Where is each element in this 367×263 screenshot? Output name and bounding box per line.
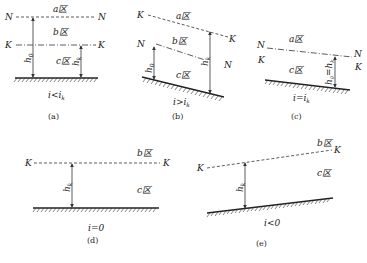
zone-label: b区: [53, 27, 70, 37]
line-label: K: [136, 10, 145, 20]
zone-label: c区: [137, 185, 153, 195]
zone-label: b区: [172, 36, 189, 46]
depth-label: h0=hk: [324, 60, 335, 85]
zone-label: b区: [317, 138, 334, 148]
line-label: N: [223, 60, 233, 70]
line-label: N: [4, 12, 14, 22]
panel-caption: (d): [87, 236, 98, 245]
zone-label: c区: [289, 65, 305, 75]
normal-depth-line: [156, 44, 205, 60]
channel-bed: [207, 198, 333, 217]
line-label: N: [136, 39, 146, 49]
line-label: N: [353, 49, 363, 59]
zone-label: a区: [176, 11, 192, 21]
zone-label: a区: [289, 34, 305, 44]
hk-label: hk: [235, 182, 246, 192]
h0-label: h0: [144, 63, 155, 73]
line-label: K: [354, 62, 363, 72]
hk-label: hk: [200, 56, 211, 66]
line-label: K: [228, 34, 237, 44]
line-label: N: [256, 40, 266, 50]
zone-label: b区: [137, 148, 154, 158]
channel-bed: [14, 78, 98, 82]
zone-label: c区: [56, 56, 72, 66]
panel-e: K K b区 c区 hk i<0 (e): [196, 138, 342, 248]
channel-bed: [265, 80, 350, 94]
panel-b: K K N N a区 b区 c区 h0 hk i>ik (b): [136, 10, 237, 121]
line-label: K: [24, 158, 33, 168]
slope-condition: i<ik: [48, 90, 65, 101]
line-label: N: [97, 12, 107, 22]
panel-caption: (c): [291, 112, 302, 121]
line-label: K: [333, 145, 342, 155]
hk-label: hk: [62, 182, 73, 192]
zone-label: c区: [176, 70, 192, 80]
panel-caption: (e): [256, 239, 267, 248]
zone-label: c区: [317, 168, 333, 178]
zone-label: a区: [53, 4, 69, 14]
panel-d: K K b区 c区 hk i=0 (d): [24, 148, 171, 245]
panel-caption: (a): [48, 112, 59, 121]
line-label: K: [162, 158, 171, 168]
line-label: K: [97, 40, 106, 50]
slope-condition: i<0: [264, 218, 280, 228]
critical-depth-line: [207, 150, 332, 168]
slope-condition: i=ik: [293, 93, 310, 104]
line-label: K: [257, 55, 266, 65]
panel-a: N N K K a区 b区 c区 h0 hk i<ik (a): [4, 4, 107, 121]
channel-bed: [33, 208, 159, 212]
line-label: K: [196, 163, 205, 173]
line-label: K: [4, 40, 13, 50]
normal-critical-line: [267, 48, 352, 57]
slope-condition: i>ik: [173, 97, 190, 108]
slope-condition: i=0: [88, 223, 104, 233]
hk-label: hk: [71, 56, 82, 66]
h0-label: h0: [23, 53, 34, 63]
panel-c: N K N K a区 c区 h0=hk i=ik (c): [256, 34, 363, 121]
panel-caption: (b): [172, 112, 183, 121]
diagram-canvas: N N K K a区 b区 c区 h0 hk i<ik (a): [0, 0, 367, 263]
